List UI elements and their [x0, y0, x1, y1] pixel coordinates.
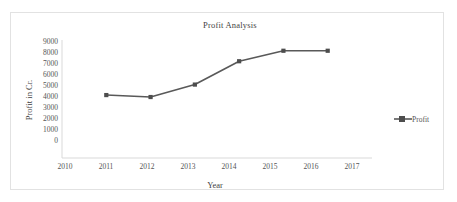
data-point-marker [237, 59, 241, 63]
data-point-marker [193, 82, 197, 86]
series-line-profit [106, 51, 327, 97]
legend-entry-profit[interactable] [394, 116, 412, 122]
chart-plot-area [0, 0, 457, 202]
data-point-marker [148, 95, 152, 99]
data-point-marker [326, 49, 330, 53]
data-point-marker [104, 93, 108, 97]
series-markers-profit [104, 49, 330, 99]
square-marker-icon [399, 116, 405, 122]
data-point-marker [281, 49, 285, 53]
legend-label-profit: Profit [412, 115, 429, 124]
data-series-profit [104, 49, 330, 99]
